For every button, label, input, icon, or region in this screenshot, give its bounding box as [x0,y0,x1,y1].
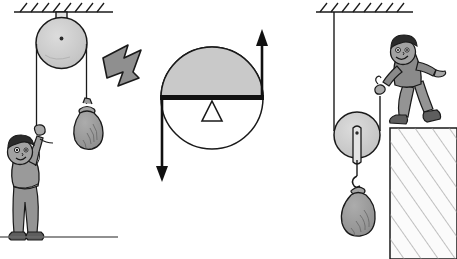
sack-left [74,98,103,149]
scene-svg [0,0,457,259]
ceiling-left [14,3,113,12]
person-standing [375,35,446,124]
sack-right [341,187,375,236]
movable-pulley [334,112,380,164]
ceiling-hatch-left [20,3,104,12]
right-panel-group [316,3,457,259]
person-pulling [8,125,54,240]
left-panel-group [0,3,118,240]
transform-arrow [103,45,141,86]
ceiling-right [316,3,413,12]
middle-panel-group [156,29,268,182]
fixed-pulley-wheel [36,18,87,69]
ceiling-hatch-right [320,3,404,12]
ledge [390,128,457,259]
pulley-circle-upper-half [161,47,263,98]
illustration-canvas: Fixed pulley and movable pulley compared… [0,0,457,259]
